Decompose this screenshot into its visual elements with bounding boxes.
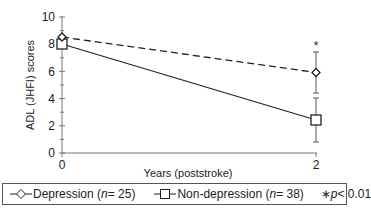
- y-tick-0: 0: [48, 146, 55, 160]
- legend-item-depression: Depression (n = 25): [9, 187, 135, 201]
- legend-item-significance: ∗p < 0.01: [321, 187, 371, 201]
- y-tick-8: 8: [48, 37, 55, 51]
- chart-legend: Depression (n = 25) Non-depression (n = …: [2, 183, 347, 205]
- x-tick-2: 2: [313, 158, 320, 172]
- x-axis-label: Years (poststroke): [144, 167, 233, 179]
- legend-item-nondepression: Non-depression (n = 38): [153, 187, 303, 201]
- chart-plot: 0 2 4 6 8 10 0 2 Years (poststroke) ADL …: [0, 0, 352, 182]
- y-tick-6: 6: [48, 65, 55, 79]
- y-axis-label: ADL (JHFI) scores: [24, 39, 36, 130]
- nondepression-line: [62, 44, 316, 120]
- error-bars: [313, 52, 319, 142]
- x-tick-0: 0: [59, 158, 66, 172]
- y-tick-2: 2: [48, 119, 55, 133]
- y-tick-10: 10: [42, 10, 56, 24]
- diamond-marker-year2: [312, 69, 320, 77]
- significance-star: *: [313, 38, 318, 53]
- square-marker-year2: [311, 115, 321, 125]
- diamond-marker-icon: [9, 188, 33, 200]
- y-tick-4: 4: [48, 92, 55, 106]
- square-marker-icon: [153, 188, 177, 200]
